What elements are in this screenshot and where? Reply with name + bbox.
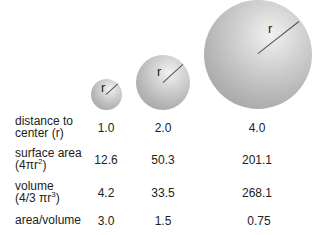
- sphere-large: [204, 0, 312, 109]
- value-r-1: 1.0: [81, 121, 131, 135]
- value-volume-3: 268.1: [232, 186, 282, 200]
- radius-label-small: r: [101, 80, 105, 95]
- value-r-2: 2.0: [138, 121, 188, 135]
- row-label-surface-area: surface area (4πr2): [15, 147, 82, 171]
- value-ratio-3: 0.75: [234, 214, 284, 228]
- row-label-volume-formula: (4/3 πr3): [15, 192, 60, 204]
- row-label-ratio: area/volume: [15, 214, 81, 226]
- value-volume-2: 33.5: [138, 186, 188, 200]
- value-surface-2: 50.3: [138, 153, 188, 167]
- row-label-distance: distance to center (r): [15, 115, 73, 139]
- radius-label-large: r: [268, 21, 272, 36]
- row-label-surface-formula: (4πr2): [15, 159, 82, 171]
- row-label-volume: volume (4/3 πr3): [15, 180, 60, 204]
- value-volume-1: 4.2: [81, 186, 131, 200]
- value-ratio-1: 3.0: [81, 214, 131, 228]
- value-ratio-2: 1.5: [138, 214, 188, 228]
- radius-label-medium: r: [157, 64, 161, 79]
- row-label-ratio-line1: area/volume: [15, 214, 81, 226]
- value-r-3: 4.0: [232, 121, 282, 135]
- row-label-distance-line2: center (r): [15, 127, 73, 139]
- value-surface-3: 201.1: [232, 153, 282, 167]
- value-surface-1: 12.6: [81, 153, 131, 167]
